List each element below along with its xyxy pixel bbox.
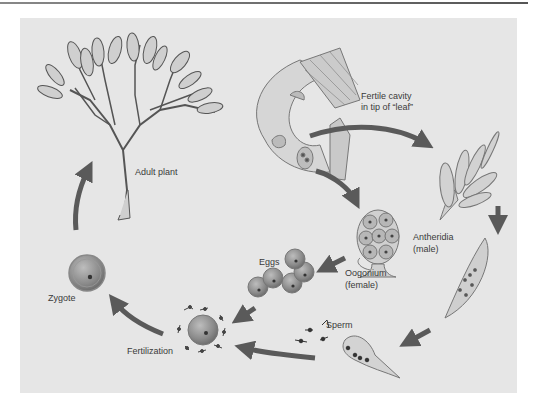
label-zygote: Zygote bbox=[48, 293, 76, 304]
arrow-cavity-to-antheridia bbox=[310, 127, 425, 143]
label-oogonium-line2: (female) bbox=[345, 280, 378, 291]
adult-plant-illustration bbox=[36, 33, 224, 220]
label-fertilization: Fertilization bbox=[127, 346, 173, 357]
fertile-cavity-illustration bbox=[257, 48, 360, 180]
life-cycle-diagram bbox=[0, 0, 558, 406]
antheridia-illustration bbox=[438, 131, 501, 220]
arrow-sperm-to-fertilization bbox=[244, 348, 315, 358]
label-antheridia-line1: Antheridia bbox=[413, 232, 454, 243]
zygote-illustration bbox=[69, 255, 105, 291]
fertilization-illustration bbox=[178, 306, 226, 353]
arrow-zygote-to-adult bbox=[76, 170, 89, 230]
arrow-antheridium-down bbox=[408, 330, 430, 342]
arrow-fertilization-to-zygote bbox=[115, 302, 163, 334]
arrow-oogonium-to-eggs bbox=[325, 258, 345, 268]
label-antheridia-line2: (male) bbox=[413, 244, 439, 255]
label-fertile-cavity-line2: in tip of “leaf” bbox=[361, 102, 413, 113]
label-adult-plant: Adult plant bbox=[135, 167, 178, 178]
label-sperm: Sperm bbox=[326, 320, 353, 331]
oogonium-illustration bbox=[357, 210, 399, 277]
arrow-eggs-to-fertilization bbox=[240, 308, 255, 318]
antheridium-illustration bbox=[445, 238, 488, 318]
eggs-illustration bbox=[248, 249, 314, 297]
label-eggs: Eggs bbox=[259, 257, 280, 268]
label-fertile-cavity-line1: Fertile cavity bbox=[361, 91, 412, 102]
label-oogonium-line1: Oogonium bbox=[345, 268, 387, 279]
